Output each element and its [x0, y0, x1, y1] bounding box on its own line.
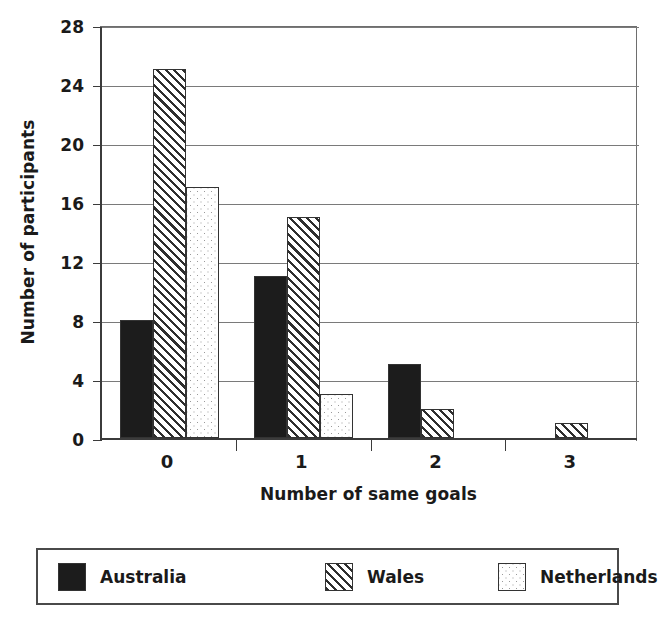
- y-tick-mark: [93, 204, 102, 205]
- legend-item-wales[interactable]: Wales: [325, 550, 424, 603]
- bar-wales-2: [421, 409, 454, 439]
- bar-wales-1: [287, 217, 320, 438]
- legend-swatch-australia: [58, 563, 86, 591]
- y-tick-label: 12: [14, 255, 84, 272]
- y-tick-label: 0: [14, 432, 84, 449]
- x-axis-title: Number of same goals: [100, 484, 637, 504]
- legend-label: Netherlands: [540, 567, 658, 587]
- y-tick-label: 16: [14, 196, 84, 213]
- bar-netherlands-1: [320, 394, 353, 438]
- bar-wales-3: [555, 423, 588, 438]
- y-tick-label: 8: [14, 314, 84, 331]
- x-tick-label: 0: [137, 451, 197, 472]
- y-tick-mark: [93, 27, 102, 28]
- y-tick-mark: [93, 86, 102, 87]
- legend-swatch-netherlands: [498, 563, 526, 591]
- bar-australia-2: [388, 364, 421, 438]
- y-tick-mark: [93, 263, 102, 264]
- y-tick-mark: [93, 440, 102, 441]
- x-tick-mark: [371, 440, 372, 451]
- x-tick-label: 1: [271, 451, 331, 472]
- legend-swatch-wales: [325, 563, 353, 591]
- legend-item-australia[interactable]: Australia: [58, 550, 187, 603]
- y-tick-label: 4: [14, 373, 84, 390]
- bar-netherlands-0: [186, 187, 219, 438]
- y-tick-label: 24: [14, 78, 84, 95]
- bar-wales-0: [153, 69, 186, 438]
- x-tick-label: 2: [406, 451, 466, 472]
- y-tick-label: 28: [14, 19, 84, 36]
- plot-box: [100, 27, 637, 440]
- chart-legend: AustraliaWalesNetherlands: [36, 548, 619, 605]
- bar-australia-1: [254, 276, 287, 438]
- y-tick-mark: [93, 322, 102, 323]
- legend-label: Wales: [367, 567, 424, 587]
- gridline: [102, 27, 639, 28]
- legend-label: Australia: [100, 567, 187, 587]
- y-tick-mark: [93, 381, 102, 382]
- x-tick-label: 3: [540, 451, 600, 472]
- bar-australia-0: [120, 320, 153, 438]
- x-tick-mark: [505, 440, 506, 451]
- y-tick-label: 20: [14, 137, 84, 154]
- legend-item-netherlands[interactable]: Netherlands: [498, 550, 658, 603]
- y-tick-mark: [93, 145, 102, 146]
- x-tick-mark: [236, 440, 237, 451]
- chart-area: Number of participants 0481216202428 012…: [0, 0, 655, 530]
